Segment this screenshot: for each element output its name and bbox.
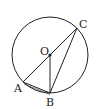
geometry-diagram: O A B C (0, 0, 98, 109)
segment-bc (50, 28, 77, 93)
label-a: A (13, 82, 23, 95)
label-o: O (40, 45, 49, 58)
label-c: C (79, 18, 87, 31)
segment-ab (23, 82, 50, 93)
segment-ab-double (24, 84, 50, 95)
label-b: B (46, 96, 54, 109)
